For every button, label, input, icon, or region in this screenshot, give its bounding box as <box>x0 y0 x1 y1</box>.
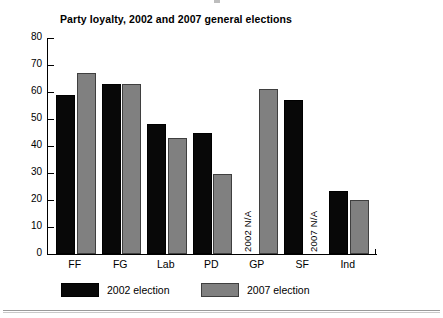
decorative-nub <box>214 0 220 3</box>
y-tick-mark <box>47 254 54 255</box>
y-tick-label: 70 <box>31 58 42 70</box>
y-tick-label: 40 <box>31 139 42 151</box>
bar-gp-2007 <box>259 89 278 254</box>
y-tick-label: 0 <box>36 247 42 259</box>
legend-label: 2002 election <box>107 284 169 296</box>
bar-ff-2007 <box>77 73 96 254</box>
na-label-sf: 2007 N/A <box>308 211 319 252</box>
x-label-fg: FG <box>95 258 147 270</box>
x-axis-line <box>47 254 377 255</box>
chart-title: Party loyalty, 2002 and 2007 general ele… <box>60 13 292 25</box>
legend-swatch <box>61 283 99 297</box>
y-tick-label: 60 <box>31 85 42 97</box>
y-tick-label: 20 <box>31 193 42 205</box>
bar-fg-2007 <box>122 84 141 254</box>
x-label-ff: FF <box>49 258 101 270</box>
y-tick-label: 30 <box>31 166 42 178</box>
bar-ind-2002 <box>329 191 348 254</box>
x-label-pd: PD <box>186 258 238 270</box>
y-tick-label: 80 <box>31 31 42 43</box>
y-tick-label: 10 <box>31 220 42 232</box>
bar-pd-2002 <box>193 133 212 255</box>
x-label-sf: SF <box>277 258 329 270</box>
bar-pd-2007 <box>213 174 232 254</box>
legend-item-2007: 2007 election <box>201 282 309 297</box>
na-label-gp: 2002 N/A <box>242 211 253 252</box>
bar-ind-2007 <box>350 200 369 254</box>
x-label-ind: Ind <box>322 258 374 270</box>
footer-rule <box>3 310 440 311</box>
legend-label: 2007 election <box>247 284 309 296</box>
plot-area: 01020304050607080 2002 N/A2007 N/A FFFGL… <box>47 38 377 256</box>
legend-swatch <box>201 283 239 297</box>
bars-layer: 2002 N/A2007 N/A <box>48 38 377 254</box>
bar-fg-2002 <box>102 84 121 254</box>
x-label-lab: Lab <box>140 258 192 270</box>
footer-rule-shadow <box>3 312 440 313</box>
chart-figure: Party loyalty, 2002 and 2007 general ele… <box>0 0 443 318</box>
x-label-gp: GP <box>231 258 283 270</box>
bar-sf-2002 <box>284 100 303 254</box>
bar-lab-2002 <box>147 124 166 254</box>
bar-lab-2007 <box>168 138 187 254</box>
y-tick-label: 50 <box>31 112 42 124</box>
bar-ff-2002 <box>56 95 75 254</box>
legend-item-2002: 2002 election <box>61 282 169 297</box>
